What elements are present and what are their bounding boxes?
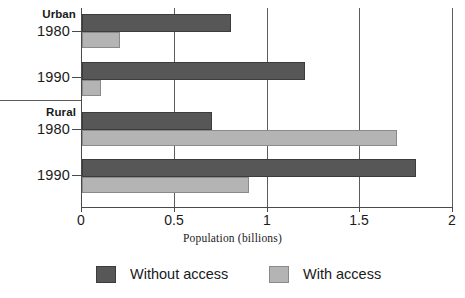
bar-urban-1980-without-access [82,14,231,32]
x-axis-title: Population (billions) [0,232,465,244]
xtick-label-1.5: 1.5 [339,212,379,228]
year-label-rural-1980: 1980 [4,121,70,137]
plot-area [81,8,452,207]
chart-legend: Without access With access [0,263,465,293]
xtick-label-2: 2 [432,212,465,228]
gridline-2 [452,8,453,207]
xtick-label-0.5: 0.5 [154,212,194,228]
gridline-1.5 [359,8,360,207]
year-label-urban-1990: 1990 [4,69,70,85]
xtick-label-0: 0 [61,212,101,228]
bar-rural-1990-with-access [82,177,249,193]
legend-item-with-access: With access [269,263,381,285]
bar-rural-1990-without-access [82,159,416,177]
group-heading-rural: Rural [10,106,76,118]
bar-urban-1990-without-access [82,62,305,80]
group-heading-urban: Urban [10,8,76,20]
gridline-1 [267,8,268,207]
legend-swatch-with-access [269,266,289,283]
bar-urban-1990-with-access [82,80,101,96]
bar-rural-1980-with-access [82,130,397,146]
bar-rural-1980-without-access [82,112,212,130]
legend-label-with-access: With access [303,266,381,282]
bar-chart: Urban 1980 1990 Rural 1980 1990 [0,0,465,298]
year-label-urban-1980: 1980 [4,23,70,39]
urban-rural-divider [0,100,82,101]
legend-item-without-access: Without access [96,263,228,285]
xtick-label-1: 1 [247,212,287,228]
year-label-rural-1990: 1990 [4,167,70,183]
legend-label-without-access: Without access [130,266,228,282]
bar-urban-1980-with-access [82,32,120,48]
legend-swatch-without-access [96,266,116,283]
